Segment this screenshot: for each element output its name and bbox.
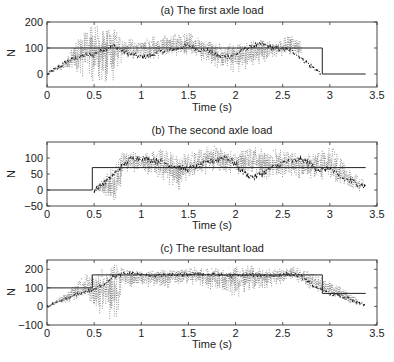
y-tick-label: 0 (37, 184, 43, 196)
axes-frame (47, 142, 377, 206)
plot-area (47, 26, 366, 81)
x-tick-label: 3.5 (369, 208, 384, 220)
subplot-first-axle-load: (a) The first axle load Time (s) N 00.51… (5, 4, 385, 113)
x-tick-label: 1.5 (181, 208, 196, 220)
x-tick-label: 1 (138, 89, 144, 101)
x-tick-label: 0 (44, 89, 50, 101)
subplot-title: (a) The first axle load (160, 4, 263, 16)
x-tick-label: 2 (233, 327, 239, 339)
x-tick-label: 1.5 (181, 327, 196, 339)
y-tick-label: 100 (25, 282, 43, 294)
x-tick-label: 1 (138, 327, 144, 339)
x-tick-label: 0 (44, 327, 50, 339)
subplot-second-axle-load: (b) The second axle load Time (s) N 00.5… (5, 124, 385, 231)
y-tick-label: 0 (37, 68, 43, 80)
y-tick-label: −50 (24, 200, 43, 212)
y-tick-label: −100 (18, 319, 43, 331)
axes-frame (47, 22, 377, 87)
x-tick-label: 3 (327, 327, 333, 339)
y-axis-label: N (5, 49, 17, 57)
x-axis-label: Time (s) (192, 219, 232, 231)
subplot-title: (b) The second axle load (152, 124, 273, 136)
y-tick-label: 50 (31, 168, 43, 180)
x-tick-label: 3 (327, 89, 333, 101)
x-tick-label: 3 (327, 208, 333, 220)
x-tick-label: 1.5 (181, 89, 196, 101)
y-tick-label: 100 (25, 42, 43, 54)
y-tick-label: 0 (37, 300, 43, 312)
subplot-resultant-load: (c) The resultant load Time (s) N 00.511… (5, 242, 385, 350)
y-tick-label: 200 (25, 16, 43, 28)
x-axis-label: Time (s) (192, 338, 232, 350)
x-tick-label: 2 (233, 208, 239, 220)
x-tick-label: 0.5 (86, 327, 101, 339)
x-tick-label: 0 (44, 208, 50, 220)
x-tick-label: 3.5 (369, 89, 384, 101)
identified-load-series (47, 42, 320, 74)
x-axis-label: Time (s) (192, 101, 232, 113)
measured-load-series (47, 264, 358, 319)
y-tick-label: 200 (25, 263, 43, 275)
chart-canvas: (a) The first axle load Time (s) N 00.51… (0, 0, 394, 362)
x-tick-label: 2.5 (275, 327, 290, 339)
x-tick-label: 0.5 (86, 208, 101, 220)
x-tick-label: 1 (138, 208, 144, 220)
static-load-series (47, 168, 366, 190)
x-tick-label: 3.5 (369, 327, 384, 339)
x-tick-label: 2.5 (275, 208, 290, 220)
x-tick-label: 0.5 (86, 89, 101, 101)
y-axis-label: N (5, 170, 17, 178)
plot-area (47, 146, 366, 200)
measured-load-series (94, 146, 363, 200)
plot-area (47, 264, 366, 319)
subplot-title: (c) The resultant load (160, 242, 264, 254)
x-tick-label: 2.5 (275, 89, 290, 101)
axes-frame (47, 260, 377, 325)
y-tick-label: 100 (25, 152, 43, 164)
y-axis-label: N (5, 288, 17, 296)
x-tick-label: 2 (233, 89, 239, 101)
figure: (a) The first axle load Time (s) N 00.51… (0, 0, 394, 362)
